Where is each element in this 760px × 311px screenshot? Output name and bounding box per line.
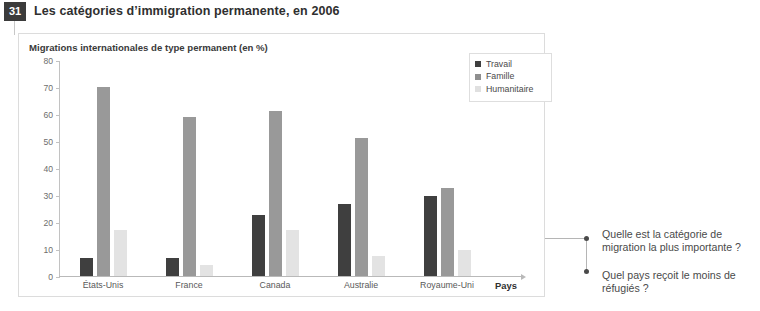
y-axis-tick-label: 10 bbox=[27, 246, 53, 255]
y-axis-tick-label: 80 bbox=[27, 57, 53, 66]
bullet-dot-icon bbox=[584, 269, 589, 274]
question-text: Quelle est la catégorie de migration la … bbox=[602, 228, 754, 255]
bar-group bbox=[338, 60, 385, 276]
bar-travail-royaume-uni bbox=[424, 196, 437, 276]
question-text: Quel pays reçoit le moins de réfugiés ? bbox=[602, 269, 754, 296]
bar-travail-france bbox=[166, 258, 179, 276]
bar-travail-australie bbox=[338, 204, 351, 276]
chart-subtitle: Migrations internationales de type perma… bbox=[29, 42, 268, 53]
bar-travail--tats-unis bbox=[80, 258, 93, 276]
x-axis-arrow-icon bbox=[521, 274, 526, 280]
figure-number-badge: 31 bbox=[4, 2, 26, 21]
y-axis-tick-label: 70 bbox=[27, 84, 53, 93]
y-axis-tick-mark bbox=[56, 88, 60, 89]
plot-area: 01020304050607080 États-UnisFranceCanada… bbox=[59, 61, 521, 277]
y-axis-tick-label: 60 bbox=[27, 111, 53, 120]
annotation-leader-line-horizontal bbox=[545, 238, 587, 239]
y-axis-tick-mark bbox=[56, 250, 60, 251]
bar-humanitaire--tats-unis bbox=[114, 230, 127, 276]
bar-famille-france bbox=[183, 117, 196, 276]
bar-travail-canada bbox=[252, 215, 265, 276]
bar-humanitaire-france bbox=[200, 265, 213, 276]
bar-famille--tats-unis bbox=[97, 87, 110, 276]
bar-group bbox=[252, 60, 299, 276]
y-axis-tick-label: 50 bbox=[27, 138, 53, 147]
x-axis-title: Pays bbox=[495, 281, 555, 290]
y-axis-tick-label: 20 bbox=[27, 219, 53, 228]
bar-humanitaire-royaume-uni bbox=[458, 250, 471, 276]
y-axis-tick-mark bbox=[56, 169, 60, 170]
bar-group bbox=[80, 60, 127, 276]
x-axis-category-label: Royaume-Uni bbox=[387, 281, 507, 290]
y-axis-tick-mark bbox=[56, 277, 60, 278]
badge-connector-line bbox=[14, 21, 15, 35]
chart-panel: Migrations internationales de type perma… bbox=[18, 33, 545, 297]
page-title: Les catégories d’immigration permanente,… bbox=[34, 2, 340, 20]
y-axis-tick-mark bbox=[56, 196, 60, 197]
y-axis-tick-mark bbox=[56, 61, 60, 62]
bar-humanitaire-australie bbox=[372, 256, 385, 276]
bar-group bbox=[166, 60, 213, 276]
y-axis-tick-label: 30 bbox=[27, 192, 53, 201]
bar-famille-australie bbox=[355, 138, 368, 276]
y-axis-tick-mark bbox=[56, 115, 60, 116]
y-axis-tick-label: 0 bbox=[27, 273, 53, 282]
bar-group bbox=[424, 60, 471, 276]
bar-humanitaire-canada bbox=[286, 230, 299, 276]
annotation-leader-line-vertical bbox=[586, 238, 587, 271]
y-axis-tick-label: 40 bbox=[27, 165, 53, 174]
y-axis-tick-mark bbox=[56, 142, 60, 143]
y-axis-tick-mark bbox=[56, 223, 60, 224]
bar-famille-canada bbox=[269, 111, 282, 276]
x-axis-line bbox=[59, 276, 521, 277]
bullet-dot-icon bbox=[584, 236, 589, 241]
bar-famille-royaume-uni bbox=[441, 188, 454, 276]
